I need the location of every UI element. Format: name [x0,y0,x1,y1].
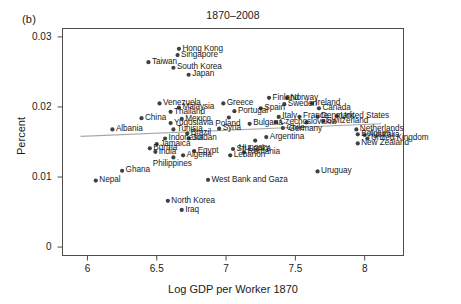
data-point [110,127,114,131]
point-label: Iraq [185,206,199,214]
point-label: Ghana [126,166,150,174]
data-point [354,127,358,131]
data-point [356,141,360,145]
point-label: Sweden [288,100,317,108]
point-label: Algeria [187,151,212,159]
data-point [171,127,175,131]
point-label: Jordan [192,134,217,142]
point-label: Japan [192,70,214,78]
data-point [267,96,271,100]
point-label: Chile [286,124,304,132]
x-tick-label: 7.5 [275,263,315,274]
y-axis-title: Percent [15,91,27,181]
data-point [181,153,185,157]
data-point [248,122,252,126]
data-point [169,121,173,125]
scatter-plot-canvas [0,0,461,304]
point-label: Nepal [99,176,120,184]
point-label: New Zealand [361,139,409,147]
x-axis-ticks [87,256,364,261]
data-point [171,66,175,70]
data-point [232,109,236,113]
data-point [180,208,184,212]
data-point [187,73,191,77]
point-label: Argentina [270,133,305,141]
plot-frame [63,29,404,256]
figure-panel: (b) 1870–2008 Hong KongSingaporeTaiwanSo… [0,0,461,304]
point-label: India [159,148,177,156]
x-tick-label: 7 [206,263,246,274]
point-label: Syria [223,124,241,132]
data-point [166,199,170,203]
data-point [206,178,210,182]
data-point [221,101,225,105]
y-tick-label: 0 [12,241,52,252]
point-label: Albania [116,125,143,133]
data-point [146,60,150,64]
point-label: Bulgaria [253,119,283,127]
data-point [148,146,152,150]
point-label: Lebanon [234,151,266,159]
point-label: West Bank and Gaza [212,176,288,184]
x-axis-title: Log GDP per Worker 1870 [62,283,404,295]
data-point [264,135,268,139]
data-point [315,169,319,173]
point-label: North Korea [171,197,215,205]
point-label: China [145,114,166,122]
x-tick-label: 6 [67,263,107,274]
x-tick-label: 6.5 [137,263,177,274]
data-point [157,101,161,105]
y-axis-ticks [58,37,63,247]
x-tick-label: 8 [345,263,385,274]
data-point [228,153,232,157]
point-label: Singapore [181,51,218,59]
data-point [120,169,124,173]
data-point [139,116,143,120]
data-point [94,178,98,182]
point-label: Taiwan [152,58,177,66]
point-label: Uruguay [321,167,352,175]
data-point [169,110,173,114]
y-tick-label: 0.03 [12,31,52,42]
point-label: Philippines [153,160,192,168]
